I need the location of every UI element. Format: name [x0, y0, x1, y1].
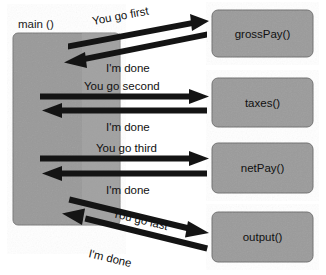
arrow-head: [189, 89, 209, 104]
arrow-shaft: [60, 108, 207, 114]
caller-label: main (): [18, 18, 54, 30]
callee-label-output: output(): [243, 231, 283, 243]
message-label-call-3: You go third: [96, 142, 157, 154]
caller-box-group[interactable]: main (): [13, 18, 120, 225]
diagram-canvas: main () grossPay() taxes() netPay() outp…: [0, 0, 326, 275]
arrow-shaft: [60, 171, 207, 177]
call-flow-diagram: main () grossPay() taxes() netPay() outp…: [0, 0, 326, 275]
callee-box-grosspay[interactable]: grossPay(): [212, 10, 313, 57]
callee-box-output[interactable]: output(): [212, 212, 313, 262]
message-label-return-4: I'm done: [88, 247, 133, 269]
arrow-head: [189, 151, 209, 166]
arrow-head: [185, 221, 209, 238]
callee-label-taxes: taxes(): [245, 97, 280, 109]
arrow-shaft: [40, 156, 192, 162]
message-label-return-3: I'm done: [106, 184, 150, 196]
arrow-shaft: [40, 94, 192, 100]
callee-box-taxes[interactable]: taxes(): [212, 78, 313, 127]
arrow-head: [190, 14, 209, 31]
arrow-call-grosspay: [68, 14, 209, 50]
message-label-call-1: You go first: [91, 5, 150, 27]
callee-box-netpay[interactable]: netPay(): [212, 143, 313, 193]
callee-label-grosspay: grossPay(): [235, 28, 291, 40]
message-label-return-1: I'm done: [106, 62, 150, 74]
message-label-call-2: You go second: [84, 80, 160, 92]
callee-label-netpay: netPay(): [241, 162, 285, 174]
callee-boxes: grossPay() taxes() netPay() output(): [212, 10, 313, 262]
message-label-return-2: I'm done: [106, 121, 150, 133]
